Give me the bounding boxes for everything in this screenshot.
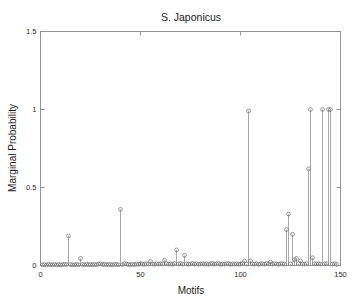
- x-tick-label: 0: [38, 270, 42, 279]
- y-tick-label: 0: [32, 261, 36, 270]
- stem-series: [41, 108, 341, 267]
- x-tick-label: 150: [334, 270, 347, 279]
- figure-canvas: S. Japonicus Motifs Marginal Probability…: [0, 0, 357, 301]
- y-axis-label: Marginal Probability: [7, 104, 18, 192]
- x-axis-label: Motifs: [178, 285, 205, 296]
- y-tick-label: 1: [32, 105, 36, 114]
- y-tick-label: 0.5: [26, 183, 36, 192]
- x-tick-label: 50: [136, 270, 144, 279]
- chart-title: S. Japonicus: [161, 11, 221, 23]
- stem-plot: S. Japonicus Motifs Marginal Probability…: [0, 0, 357, 301]
- x-tick-label: 100: [234, 270, 247, 279]
- y-tick-label: 1.5: [26, 27, 36, 36]
- plot-frame: [41, 32, 341, 266]
- tick-labels: 05010015000.511.5: [26, 27, 347, 278]
- tick-marks: [41, 32, 341, 266]
